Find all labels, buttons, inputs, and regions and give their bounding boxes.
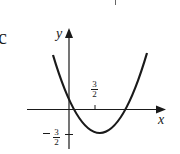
x-tick-denominator: 2 [92,90,97,99]
graph [0,0,180,154]
x-tick-numerator: 3 [92,80,97,89]
y-axis-label: y [56,27,62,41]
y-tick-denominator: 2 [54,138,59,147]
y-axis-arrow-icon [65,28,73,38]
y-tick-numerator: 3 [54,128,59,137]
y-tick-minus-sign [43,133,50,134]
y-tick-label: 3 2 [53,128,60,147]
x-tick-label: 3 2 [91,80,98,99]
x-axis-label: x [158,113,164,127]
parabola-curve [53,53,147,133]
